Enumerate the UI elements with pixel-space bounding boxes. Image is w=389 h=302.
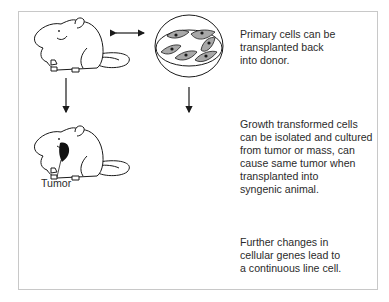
- caption-line: can be isolated and cultured: [240, 131, 373, 144]
- caption-line: syngenic animal.: [240, 183, 373, 196]
- caption-transformed-cells: Growth transformed cells can be isolated…: [240, 118, 373, 196]
- caption-line: transplanted into: [240, 170, 373, 183]
- caption-line: a continuous line cell.: [240, 262, 341, 275]
- caption-line: Primary cells can be: [240, 28, 335, 41]
- caption-line: into donor.: [240, 54, 335, 67]
- caption-line: cause same tumor when: [240, 157, 373, 170]
- caption-line: cellular genes lead to: [240, 249, 341, 262]
- rat-icon-donor: [34, 18, 129, 72]
- petri-dish-primary-cells: [155, 15, 223, 77]
- caption-line: transplanted back: [240, 41, 335, 54]
- caption-line: Growth transformed cells: [240, 118, 373, 131]
- tumor-label: Tumor: [41, 177, 71, 189]
- rat-with-tumor-icon: [34, 126, 129, 180]
- caption-primary-cells: Primary cells can be transplanted back i…: [240, 28, 335, 67]
- caption-continuous-line: Further changes in cellular genes lead t…: [240, 236, 341, 275]
- caption-line: from tumor or mass, can: [240, 144, 373, 157]
- caption-line: Further changes in: [240, 236, 341, 249]
